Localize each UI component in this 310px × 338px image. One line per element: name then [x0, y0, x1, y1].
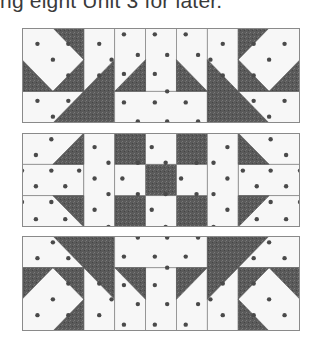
- quilt-block-bars-bottom: [115, 28, 208, 123]
- quilt-block-diamond-corner: [207, 236, 300, 331]
- quilt-block-nine-patch: [115, 133, 208, 227]
- quilt-block-flying-geese-side: [22, 133, 115, 227]
- quilt-block-flying-geese-side: [207, 133, 300, 227]
- quilt-block-bars-bottom: [115, 236, 208, 331]
- quilt-block-diamond-corner: [22, 28, 115, 123]
- quilt-row-3: [22, 236, 300, 331]
- quilt-row-2: [22, 133, 300, 227]
- caption-text: ng eight Unit 3 for later.: [0, 0, 222, 13]
- quilt-block-diamond-corner: [22, 236, 115, 331]
- quilt-row-1: [22, 28, 300, 123]
- quilt-block-diamond-corner: [207, 28, 300, 123]
